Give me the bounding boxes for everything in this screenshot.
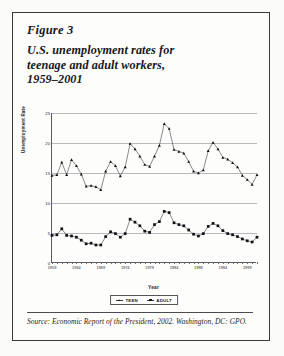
- datapoint-teen-1988: [192, 170, 195, 173]
- datapoint-adult-1974: [124, 232, 127, 235]
- adult-marker-icon: [147, 298, 154, 302]
- datapoint-adult-1994: [221, 229, 224, 232]
- datapoint-adult-1960: [56, 233, 59, 236]
- datapoint-adult-1999: [246, 239, 249, 242]
- source-line-1: Source: Economic Report of the President…: [27, 317, 213, 326]
- chart-legend: TEEN ADULT: [110, 295, 178, 305]
- datapoint-adult-1984: [173, 221, 176, 224]
- datapoint-adult-1962: [65, 234, 68, 237]
- page-title: U.S. unemployment rates for teenage and …: [27, 43, 251, 87]
- figure-title-block: Figure 3 U.S. unemployment rates for tee…: [27, 23, 251, 87]
- datapoint-adult-1983: [168, 211, 171, 214]
- plot-area: 0510152025195919641969197419791984198919…: [51, 113, 256, 263]
- datapoint-adult-1975: [129, 218, 132, 221]
- datapoint-teen-1969: [99, 188, 102, 191]
- y-tick-25: 25: [45, 111, 50, 116]
- datapoint-adult-1995: [226, 232, 229, 235]
- datapoint-adult-1968: [95, 244, 98, 247]
- datapoint-teen-1962: [65, 173, 68, 176]
- figure-title-line-1: U.S. unemployment rates for: [27, 43, 251, 58]
- datapoint-adult-1959: [51, 234, 54, 237]
- datapoint-teen-1992: [212, 141, 215, 144]
- datapoint-teen-1963: [70, 158, 73, 161]
- legend-item-adult: ADULT: [147, 298, 172, 303]
- x-tick-1984: 1984: [170, 265, 179, 270]
- series-line-adult: [52, 211, 257, 245]
- datapoint-teen-1994: [221, 156, 224, 159]
- legend-label-teen: TEEN: [125, 298, 138, 303]
- x-tick-1979: 1979: [145, 265, 154, 270]
- datapoint-teen-1978: [143, 163, 146, 166]
- datapoint-adult-1986: [182, 224, 185, 227]
- figure-title-line-3: 1959–2001: [27, 72, 251, 87]
- source-caption: Source: Economic Report of the President…: [27, 317, 253, 327]
- datapoint-adult-1969: [99, 244, 102, 247]
- datapoint-adult-1966: [85, 242, 88, 245]
- datapoint-teen-1991: [207, 149, 210, 152]
- datapoint-adult-1971: [109, 230, 112, 233]
- datapoint-teen-1961: [60, 161, 63, 164]
- x-axis-label: Year: [51, 285, 256, 290]
- figure-number: Figure 3: [27, 23, 251, 38]
- datapoint-adult-1998: [241, 238, 244, 241]
- source-divider: [27, 312, 253, 313]
- datapoint-teen-1965: [80, 173, 83, 176]
- datapoint-adult-1980: [153, 223, 156, 226]
- datapoint-teen-1990: [202, 169, 205, 172]
- teen-marker-icon: [116, 298, 123, 302]
- x-tick-1974: 1974: [121, 265, 130, 270]
- y-tick-10: 10: [45, 201, 50, 206]
- datapoint-adult-1987: [187, 229, 190, 232]
- x-tick-1959: 1959: [48, 265, 57, 270]
- x-tick-1989: 1989: [194, 265, 203, 270]
- y-tick-15: 15: [45, 171, 50, 176]
- x-tick-1964: 1964: [72, 265, 81, 270]
- datapoint-adult-1997: [236, 235, 239, 238]
- x-tick-1994: 1994: [219, 265, 228, 270]
- x-tick-1999: 1999: [243, 265, 252, 270]
- datapoint-teen-1998: [241, 174, 244, 177]
- series-layer: [52, 113, 257, 263]
- datapoint-adult-1970: [104, 235, 107, 238]
- x-tickmark-2001: [257, 262, 258, 264]
- datapoint-adult-1996: [231, 233, 234, 236]
- datapoint-adult-1990: [202, 232, 205, 235]
- source-line-2: DC: GPO.: [215, 317, 247, 326]
- y-tick-5: 5: [48, 231, 50, 236]
- datapoint-adult-1978: [143, 230, 146, 233]
- datapoint-adult-2000: [251, 241, 254, 244]
- datapoint-adult-1982: [163, 210, 166, 213]
- y-axis-label: Unemployment Rate: [21, 106, 26, 153]
- figure-frame: Figure 3 U.S. unemployment rates for tee…: [12, 12, 270, 341]
- datapoint-teen-1984: [173, 148, 176, 151]
- datapoint-adult-1967: [90, 242, 93, 245]
- y-tick-20: 20: [45, 141, 50, 146]
- legend-label-adult: ADULT: [156, 298, 172, 303]
- datapoint-adult-1981: [158, 220, 161, 223]
- datapoint-adult-1976: [134, 221, 137, 224]
- datapoint-adult-1972: [114, 232, 117, 235]
- datapoint-adult-2001: [256, 236, 259, 239]
- datapoint-teen-1971: [109, 160, 112, 163]
- datapoint-adult-1977: [139, 224, 142, 227]
- figure-page: Figure 3 U.S. unemployment rates for tee…: [0, 0, 284, 356]
- datapoint-adult-1988: [192, 233, 195, 236]
- datapoint-adult-1963: [70, 235, 73, 238]
- datapoint-teen-1973: [119, 175, 122, 178]
- datapoint-teen-1975: [129, 142, 132, 145]
- datapoint-adult-1992: [212, 222, 215, 225]
- datapoint-adult-1989: [197, 235, 200, 238]
- datapoint-teen-1980: [153, 155, 156, 158]
- datapoint-teen-2001: [256, 173, 259, 176]
- datapoint-teen-1987: [187, 160, 190, 163]
- datapoint-adult-1961: [60, 227, 63, 230]
- datapoint-teen-1970: [104, 170, 107, 173]
- datapoint-adult-1979: [148, 231, 151, 234]
- datapoint-adult-1973: [119, 236, 122, 239]
- datapoint-adult-1965: [80, 239, 83, 242]
- datapoint-teen-1981: [158, 144, 161, 147]
- datapoint-teen-1982: [163, 122, 166, 125]
- legend-item-teen: TEEN: [116, 298, 138, 303]
- unemployment-line-chart: Unemployment Rate 0510152025195919641969…: [30, 109, 258, 301]
- x-tick-1969: 1969: [96, 265, 105, 270]
